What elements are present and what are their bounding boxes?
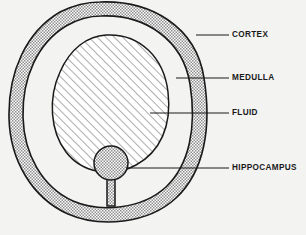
hippocampus-circle: [94, 146, 128, 180]
label-fluid: FLUID: [232, 108, 258, 117]
figure-container: CORTEX MEDULLA FLUID HIPPOCAMPUS: [0, 0, 306, 235]
label-cortex: CORTEX: [232, 30, 268, 39]
label-medulla: MEDULLA: [232, 73, 274, 82]
anatomical-diagram: CORTEX MEDULLA FLUID HIPPOCAMPUS: [0, 0, 306, 235]
label-hippocampus: HIPPOCAMPUS: [232, 163, 297, 172]
